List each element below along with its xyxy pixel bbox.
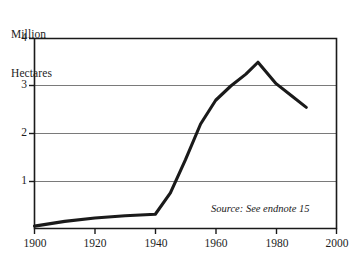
- xtick-label-1920: 1920: [75, 237, 115, 249]
- data-line-area: [35, 62, 307, 226]
- ytick-label-3: 3: [11, 78, 27, 90]
- xtick-label-1980: 1980: [257, 237, 297, 249]
- plot-area: [0, 0, 360, 265]
- xtick-label-1940: 1940: [136, 237, 176, 249]
- xtick-label-1900: 1900: [15, 237, 55, 249]
- chart-figure: Million Hectares 4 3 2 1 1900 1920 1940 …: [0, 0, 360, 265]
- ytick-label-2: 2: [11, 126, 27, 138]
- ytick-label-1: 1: [11, 174, 27, 186]
- source-annotation: Source: See endnote 15: [211, 203, 309, 214]
- xtick-label-2000: 2000: [317, 237, 357, 249]
- ytick-label-4: 4: [11, 31, 27, 43]
- xtick-label-1960: 1960: [196, 237, 236, 249]
